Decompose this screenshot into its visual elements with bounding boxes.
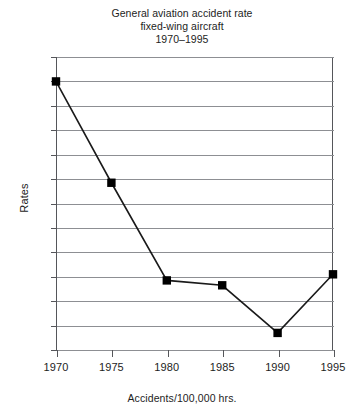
y-tick-mark — [51, 81, 57, 82]
x-tick-label: 1990 — [265, 361, 290, 373]
gridline-y — [57, 326, 334, 327]
x-tick-mark — [279, 350, 280, 357]
gridline-y — [57, 228, 334, 229]
chart-title: General aviation accident rate fixed-win… — [0, 7, 364, 47]
y-tick-mark — [51, 277, 57, 278]
chart-title-line-2: fixed-wing aircraft — [0, 20, 364, 33]
gridline-y — [57, 204, 334, 205]
y-tick-mark — [51, 252, 57, 253]
y-tick-mark — [51, 179, 57, 180]
y-tick-mark — [51, 57, 57, 58]
y-tick-mark — [51, 130, 57, 131]
x-tick-label: 1970 — [44, 361, 69, 373]
y-tick-mark — [51, 228, 57, 229]
y-axis-title: Rates — [18, 168, 30, 228]
gridline-y — [57, 301, 334, 302]
gridline-y — [57, 81, 334, 82]
y-tick-mark — [51, 204, 57, 205]
y-tick-mark — [51, 326, 57, 327]
x-tick-mark — [57, 350, 58, 357]
x-tick-mark — [334, 350, 335, 357]
chart-title-line-1: General aviation accident rate — [0, 7, 364, 20]
x-tick-label: 1975 — [99, 361, 124, 373]
x-tick-mark — [168, 350, 169, 357]
x-tick-label: 1985 — [210, 361, 235, 373]
x-tick-label: 1980 — [154, 361, 179, 373]
gridline-y — [57, 277, 334, 278]
chart-figure: General aviation accident rate fixed-win… — [0, 0, 364, 418]
y-tick-mark — [51, 106, 57, 107]
x-tick-label: 1995 — [321, 361, 346, 373]
y-tick-mark — [51, 301, 57, 302]
x-axis-title: Accidents/100,000 hrs. — [0, 392, 364, 404]
gridline-y — [57, 350, 334, 351]
chart-title-line-3: 1970–1995 — [0, 33, 364, 46]
gridline-y — [57, 155, 334, 156]
gridline-y — [57, 252, 334, 253]
gridline-y — [57, 130, 334, 131]
y-tick-mark — [51, 155, 57, 156]
gridline-y — [57, 179, 334, 180]
x-tick-mark — [223, 350, 224, 357]
x-tick-mark — [112, 350, 113, 357]
gridline-y — [57, 57, 334, 58]
gridline-y — [57, 106, 334, 107]
plot-area — [56, 57, 333, 350]
